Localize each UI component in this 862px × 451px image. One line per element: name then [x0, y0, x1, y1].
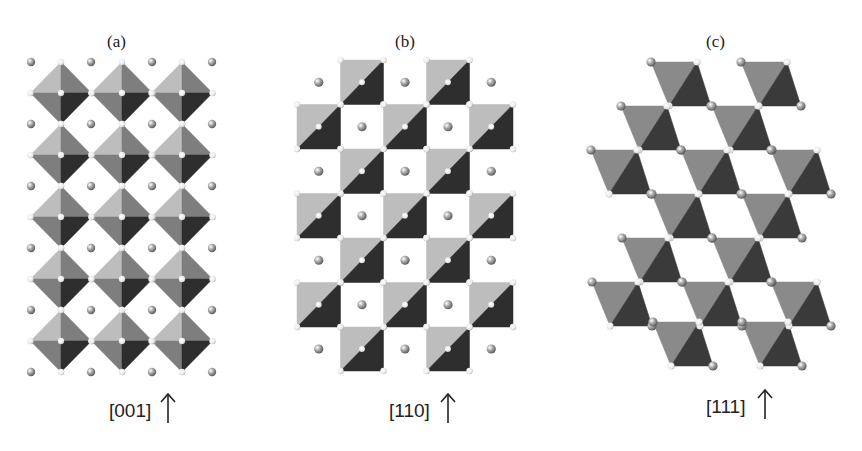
cation-sphere [736, 57, 745, 66]
anion-sphere [294, 146, 300, 152]
cation-sphere [677, 277, 686, 286]
anion-sphere [466, 235, 472, 241]
octahedron [741, 62, 801, 106]
anion-sphere [723, 146, 730, 153]
anion-sphere [58, 214, 64, 220]
anion-sphere [58, 121, 64, 127]
anion-sphere [294, 324, 300, 330]
anion-sphere [423, 146, 429, 152]
anion-sphere [294, 101, 300, 107]
anion-sphere [510, 324, 516, 330]
anion-sphere [466, 324, 472, 330]
anion-sphere [179, 183, 185, 189]
panel-a-octahedra [27, 58, 216, 376]
cation-sphere [357, 122, 366, 131]
anion-sphere [119, 369, 125, 375]
anion-sphere [510, 101, 516, 107]
anion-sphere [606, 322, 613, 329]
crystal-structure-figure: (a) (b) (c) [001] [110] [111] [0, 0, 862, 451]
anion-sphere [359, 257, 365, 263]
anion-sphere [510, 279, 516, 285]
anion-sphere [510, 235, 516, 241]
anion-sphere [466, 146, 472, 152]
structure-drawings [0, 0, 862, 451]
anion-sphere [445, 346, 451, 352]
anion-sphere [179, 59, 185, 65]
cation-sphere [314, 167, 323, 176]
anion-sphere [58, 307, 64, 313]
anion-sphere [488, 213, 494, 219]
anion-sphere [445, 257, 451, 263]
anion-sphere [337, 57, 343, 63]
anion-sphere [88, 214, 94, 220]
anion-sphere [664, 234, 671, 241]
anion-sphere [756, 362, 763, 369]
anion-sphere [58, 183, 64, 189]
anion-sphere [58, 338, 64, 344]
anion-sphere [337, 190, 343, 196]
cation-sphere [208, 120, 216, 128]
anion-sphere [402, 213, 408, 219]
cation-sphere [707, 101, 716, 110]
anion-sphere [27, 338, 33, 344]
octahedron [712, 106, 772, 150]
octahedron [622, 238, 682, 282]
anion-sphere [148, 214, 154, 220]
anion-sphere [445, 168, 451, 174]
anion-sphere [605, 190, 612, 197]
cation-sphere [443, 300, 452, 309]
anion-sphere [58, 245, 64, 251]
cation-sphere [314, 256, 323, 265]
cation-sphere [826, 189, 835, 198]
octahedron [771, 150, 831, 194]
cation-sphere [587, 277, 596, 286]
cation-sphere [586, 145, 595, 154]
anion-sphere [294, 190, 300, 196]
anion-sphere [179, 307, 185, 313]
cation-sphere [148, 368, 156, 376]
cation-sphere [27, 120, 35, 128]
anion-sphere [466, 190, 472, 196]
cation-sphere [766, 145, 775, 154]
anion-sphere [423, 101, 429, 107]
octahedron [591, 150, 651, 194]
anion-sphere [423, 235, 429, 241]
anion-sphere [119, 90, 125, 96]
anion-sphere [179, 245, 185, 251]
cation-sphere [487, 256, 496, 265]
octahedron [682, 282, 742, 326]
anion-sphere [316, 213, 322, 219]
anion-sphere [445, 79, 451, 85]
cation-sphere [208, 244, 216, 252]
anion-sphere [316, 124, 322, 130]
cation-sphere [27, 244, 35, 252]
octahedron [681, 150, 741, 194]
anion-sphere [380, 57, 386, 63]
anion-sphere [380, 324, 386, 330]
anion-sphere [148, 276, 154, 282]
anion-sphere [337, 368, 343, 374]
anion-sphere [694, 190, 701, 197]
cation-sphere [208, 58, 216, 66]
anion-sphere [423, 324, 429, 330]
anion-sphere [316, 302, 322, 308]
anion-sphere [119, 183, 125, 189]
anion-sphere [380, 279, 386, 285]
cation-sphere [208, 368, 216, 376]
anion-sphere [209, 338, 215, 344]
anion-sphere [337, 146, 343, 152]
anion-sphere [179, 276, 185, 282]
cation-sphere [27, 368, 35, 376]
anion-sphere [58, 369, 64, 375]
anion-sphere [88, 152, 94, 158]
anion-sphere [119, 338, 125, 344]
anion-sphere [695, 318, 702, 325]
anion-sphere [294, 235, 300, 241]
anion-sphere [466, 57, 472, 63]
octahedron [742, 322, 802, 366]
octahedron [653, 322, 713, 366]
cation-sphere [357, 211, 366, 220]
cation-sphere [616, 101, 625, 110]
anion-sphere [88, 338, 94, 344]
anion-sphere [27, 90, 33, 96]
